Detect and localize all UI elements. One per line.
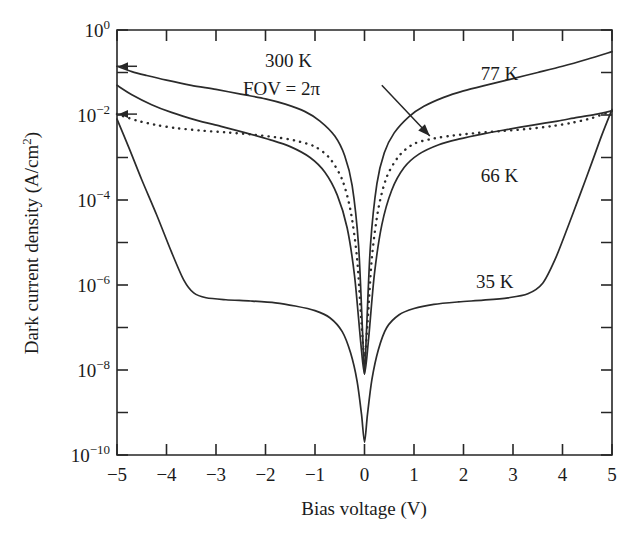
curve-35-k	[117, 109, 612, 442]
x-tick-label: 2	[459, 464, 469, 485]
x-tick-label: −2	[255, 464, 275, 485]
x-tick-label: 3	[508, 464, 518, 485]
chart-canvas: 10010−210−410−610−810−10 −5−4−3−2−101234…	[0, 0, 637, 534]
condition-fov-label: FOV = 2π	[243, 78, 320, 99]
x-tick-label: −3	[206, 464, 226, 485]
curve-label-77-k: 77 K	[481, 63, 519, 84]
y-tick-label: 100	[85, 17, 111, 41]
x-axis-title: Bias voltage (V)	[301, 498, 427, 520]
y-tick-label: 10−2	[77, 102, 110, 126]
curve-label-35-k: 35 K	[476, 271, 514, 292]
curve-label-66-k: 66 K	[481, 165, 519, 186]
dark-current-figure: 10010−210−410−610−810−10 −5−4−3−2−101234…	[0, 0, 637, 534]
plot-frame	[117, 30, 612, 455]
annotation-arrow	[382, 85, 430, 136]
x-tick-label: 4	[558, 464, 568, 485]
condition-300k-label: 300 K	[265, 50, 312, 71]
curve-77-k	[117, 52, 612, 375]
x-axis-ticks	[117, 30, 612, 455]
condition-annotation: 300 K FOV = 2π	[243, 50, 320, 99]
y-axis-tick-labels: 10010−210−410−610−810−10	[71, 17, 111, 466]
x-tick-label: 5	[607, 464, 617, 485]
curve-labels: 77 K66 K35 K	[476, 63, 519, 291]
y-tick-label: 10−10	[71, 442, 110, 466]
x-tick-label: 0	[360, 464, 370, 485]
x-tick-label: 1	[409, 464, 419, 485]
curve-300-k-fov-2pi	[117, 111, 612, 357]
y-tick-label: 10−8	[77, 357, 110, 381]
y-axis-ticks	[117, 30, 612, 455]
x-tick-label: −4	[156, 464, 177, 485]
y-axis-title: Dark current density (A/cm2)	[19, 132, 43, 354]
data-curves	[117, 52, 612, 443]
y-tick-label: 10−4	[77, 187, 110, 211]
x-tick-label: −5	[107, 464, 127, 485]
y-tick-label: 10−6	[77, 272, 110, 296]
x-axis-tick-labels: −5−4−3−2−1012345	[107, 464, 617, 485]
x-tick-label: −1	[305, 464, 325, 485]
